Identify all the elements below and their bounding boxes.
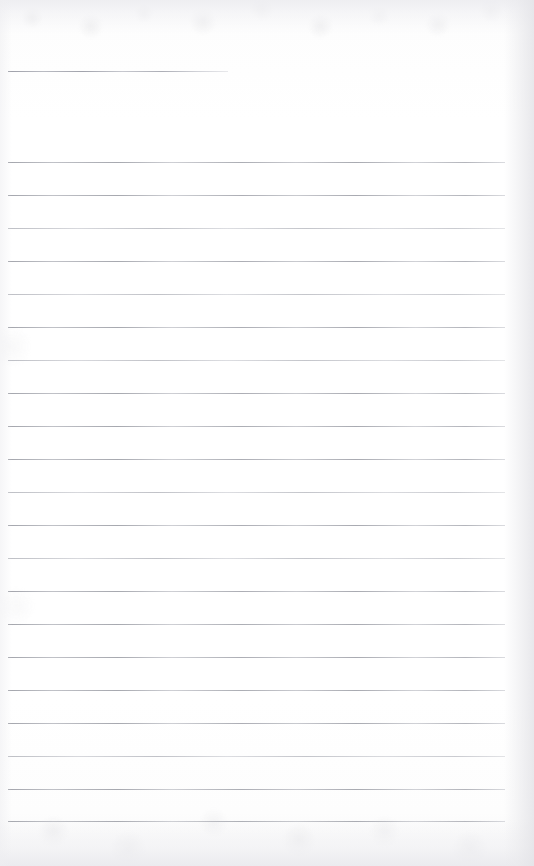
ruled-line [8,393,505,394]
ruled-line [8,756,505,757]
ruled-line [8,591,505,592]
ruled-line [8,558,505,559]
ruled-line [8,657,505,658]
ruled-line [8,624,505,625]
ruled-line [8,162,505,163]
ruled-line [8,690,505,691]
ruled-line [8,195,505,196]
ruled-line [8,426,505,427]
ruled-line [8,821,505,822]
ruled-line [8,228,505,229]
ruled-line [8,327,505,328]
header-rule [8,71,228,72]
ruled-line [8,525,505,526]
ruled-line [8,492,505,493]
paper-background [0,0,534,866]
ruled-line [8,723,505,724]
ruled-line [8,459,505,460]
scanned-page [0,0,534,866]
ruled-line [8,789,505,790]
ruled-line [8,294,505,295]
ruled-line [8,360,505,361]
ruled-line [8,261,505,262]
